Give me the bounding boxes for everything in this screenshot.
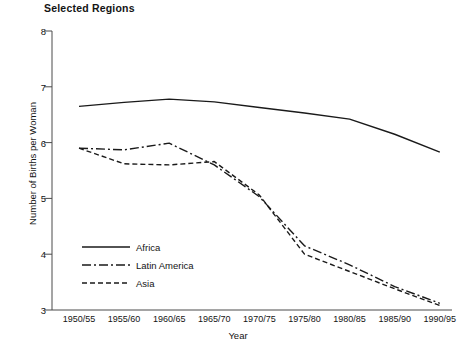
- series-line-asia: [79, 148, 440, 305]
- legend-swatches: [82, 247, 130, 283]
- line-chart: Selected Regions Number of Births per Wo…: [0, 0, 476, 347]
- y-axis-ticks: [44, 31, 52, 310]
- plot-area: [0, 0, 476, 347]
- series-lines: [79, 99, 440, 305]
- series-line-latin-america: [79, 143, 440, 303]
- axis-frame: [52, 31, 452, 310]
- series-line-africa: [79, 99, 440, 152]
